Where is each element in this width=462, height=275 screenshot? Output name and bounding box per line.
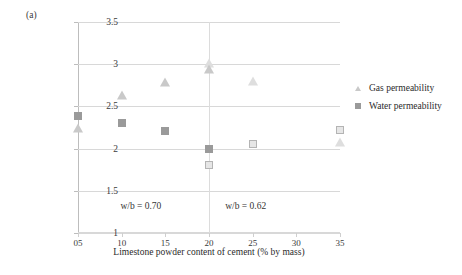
legend-item-1: Gas permeability [352,82,442,94]
x-axis-title: Limestone powder content of cement (% by… [78,247,340,257]
y-tick-label: 3.5 [78,17,118,27]
divider-line [209,22,210,233]
plot-area: w/b = 0.70w/b = 0.62 [78,22,340,233]
data-point-triangle [117,91,127,100]
data-point-square [205,161,213,169]
y-tick-label: 3 [78,59,118,69]
data-point-square [161,127,169,135]
x-tick-mark [253,233,254,237]
data-point-square [118,119,126,127]
x-tick-mark [122,233,123,237]
data-point-triangle [248,77,258,86]
x-tick-mark [165,233,166,237]
x-tick-mark [296,233,297,237]
panel-label: (a) [26,10,37,20]
y-tick-label: 1.5 [78,186,118,196]
data-point-square [74,112,82,120]
data-point-triangle [204,65,214,74]
data-point-triangle [160,77,170,86]
triangle-icon [352,86,364,91]
legend-label: Gas permeability [369,83,434,93]
square-icon [352,103,364,109]
x-tick-mark [340,233,341,237]
legend-label: Water permeability [369,101,442,111]
legend: Gas permeabilityWater permeability [352,82,442,118]
y-tick-label: 2 [78,144,118,154]
annotation-label: w/b = 0.62 [225,201,266,211]
legend-item-2: Water permeability [352,100,442,112]
data-point-square [336,126,344,134]
chart-figure: (a) w/b = 0.70w/b = 0.62 11.522.533.5 05… [0,0,462,275]
data-point-triangle [73,124,83,133]
data-point-square [205,145,213,153]
annotation-label: w/b = 0.70 [120,201,161,211]
y-tick-label: 1 [78,228,118,238]
data-point-square [249,140,257,148]
x-tick-mark [209,233,210,237]
data-point-triangle [335,137,345,146]
y-tick-label: 2.5 [78,101,118,111]
